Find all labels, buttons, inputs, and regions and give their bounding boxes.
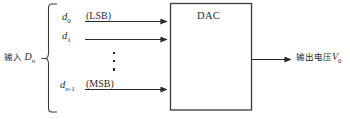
ellipsis-dot: [113, 68, 115, 70]
input-group-label: 输入 Dn: [4, 52, 35, 65]
input-label-d0-subscript: 0: [67, 17, 71, 25]
input-group-label-subscript: n: [32, 57, 35, 64]
input-group-brace: [42, 4, 57, 112]
input-group-label-cjk: 输入: [4, 52, 22, 62]
input-label-d1: d1: [62, 31, 71, 44]
input-label-dn-subscript: n-1: [65, 85, 75, 93]
input-note-lsb: (LSB): [86, 11, 111, 21]
output-label-cjk: 输出电压: [296, 52, 332, 62]
input-label-d1-subscript: 1: [67, 36, 71, 44]
vertical-ellipsis: [113, 52, 117, 74]
input-group-label-symbol: D: [25, 51, 32, 62]
input-label-d0: d0: [62, 12, 71, 25]
output-label-subscript: 0: [338, 57, 341, 64]
ellipsis-dot: [113, 60, 115, 62]
dac-block-label: DAC: [197, 11, 220, 22]
diagram-canvas: 输入 Dn d0 (LSB) d1 dn-1 (MSB) DAC 输出电压V0: [0, 0, 350, 119]
input-label-dn: dn-1: [60, 80, 75, 93]
ellipsis-dot: [113, 52, 115, 54]
output-label: 输出电压V0: [296, 52, 342, 65]
input-note-msb: (MSB): [86, 79, 114, 89]
